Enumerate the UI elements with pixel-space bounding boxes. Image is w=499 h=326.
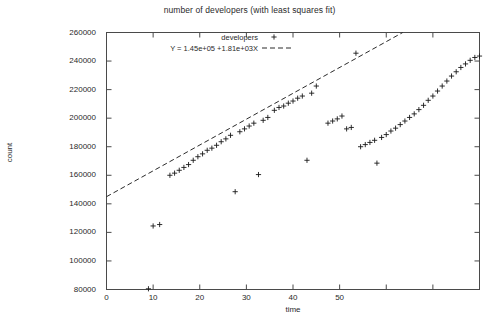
x-tick-label: 10 bbox=[133, 293, 173, 302]
x-tick-label: 40 bbox=[273, 293, 313, 302]
x-tick-label: 0 bbox=[87, 293, 127, 302]
y-tick-label: 140000 bbox=[36, 199, 96, 208]
y-tick-label: 200000 bbox=[36, 113, 96, 122]
legend-entry-developers-label: developers bbox=[148, 33, 258, 42]
y-tick-label: 240000 bbox=[36, 56, 96, 65]
x-tick-label: 20 bbox=[180, 293, 220, 302]
plot-frame bbox=[107, 33, 480, 290]
chart-title: number of developers (with least squares… bbox=[0, 5, 499, 15]
legend-markers bbox=[262, 34, 292, 48]
y-tick-label: 100000 bbox=[36, 256, 96, 265]
y-tick-label: 260000 bbox=[36, 28, 96, 37]
y-tick-label: 160000 bbox=[36, 170, 96, 179]
least-squares-fit-line bbox=[107, 33, 403, 197]
y-tick-label: 220000 bbox=[36, 85, 96, 94]
data-point-markers bbox=[146, 51, 482, 292]
x-axis-ticks bbox=[153, 33, 479, 290]
y-axis-label: count bbox=[5, 130, 14, 176]
y-tick-label: 120000 bbox=[36, 227, 96, 236]
legend-entry-fit-label: Y = 1.45e+05 +1.81e+03X bbox=[88, 44, 258, 53]
chart-container: number of developers (with least squares… bbox=[0, 0, 499, 326]
y-axis-ticks bbox=[107, 33, 480, 290]
x-tick-label: 30 bbox=[226, 293, 266, 302]
x-axis-label: time bbox=[106, 305, 480, 314]
x-tick-label: 50 bbox=[320, 293, 360, 302]
y-tick-label: 180000 bbox=[36, 142, 96, 151]
